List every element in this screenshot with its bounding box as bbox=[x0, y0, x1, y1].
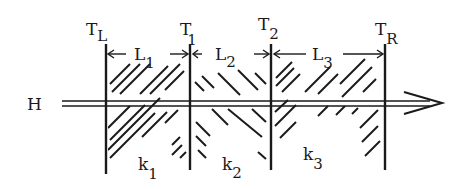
conductivity-label-k3: k3 bbox=[303, 144, 323, 173]
composite-wall-diagram: H TL T1 T2 TR L1 L2 L3 k1 k2 k3 bbox=[0, 0, 470, 189]
boundary-label-t2: T2 bbox=[258, 14, 279, 43]
layer-1-hatching bbox=[108, 64, 186, 158]
length-label-l2: L2 bbox=[215, 44, 236, 71]
boundary-label-tr: TR bbox=[375, 19, 398, 48]
boundary-label-tl: TL bbox=[86, 19, 107, 45]
flux-label-h: H bbox=[27, 94, 42, 114]
length-label-l3: L3 bbox=[312, 44, 333, 72]
layer-2-hatching bbox=[195, 70, 266, 159]
conductivity-label-k2: k2 bbox=[222, 154, 242, 182]
boundary-label-t1: T1 bbox=[180, 19, 197, 49]
layer-3-hatching bbox=[275, 59, 380, 156]
conductivity-label-k1: k1 bbox=[138, 154, 158, 183]
